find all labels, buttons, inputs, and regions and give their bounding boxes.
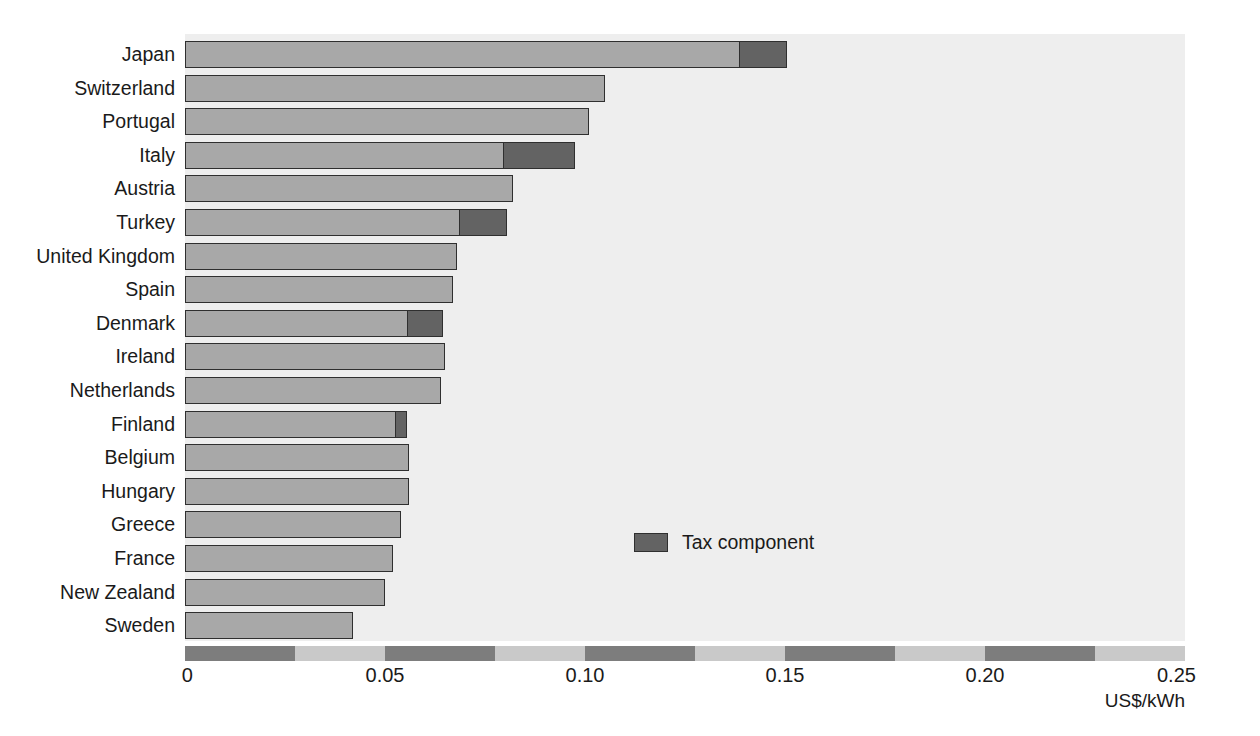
bar-segment-base	[185, 545, 393, 572]
bar-row	[185, 511, 401, 538]
category-label-ireland: Ireland	[115, 343, 175, 370]
x-axis-band	[185, 646, 1185, 661]
bar-row	[185, 411, 407, 438]
bar-row	[185, 276, 453, 303]
bar-row	[185, 209, 507, 236]
bar-segment-base	[185, 612, 353, 639]
category-label-turkey: Turkey	[116, 209, 175, 236]
x-axis-title: US$/kWh	[1105, 690, 1185, 712]
category-label-portugal: Portugal	[102, 108, 175, 135]
electricity-price-bar-chart: REGULATORY REFORM IN THE UNITED KINGDOM …	[0, 0, 1260, 736]
bar-segment-tax	[407, 310, 443, 337]
bar-segment-base	[185, 41, 741, 68]
x-tick-label-1: 0.05	[366, 664, 405, 687]
bar-row	[185, 444, 409, 471]
bar-segment-base	[185, 343, 445, 370]
bar-segment-base	[185, 108, 589, 135]
bar-segment-base	[185, 310, 409, 337]
legend-swatch-tax-component	[634, 533, 668, 552]
category-label-austria: Austria	[114, 175, 175, 202]
bar-row	[185, 142, 575, 169]
category-label-france: France	[114, 545, 175, 572]
x-tick-label-0: 0	[182, 664, 193, 687]
axis-band-block	[185, 646, 295, 661]
bar-segment-tax	[395, 411, 407, 438]
bar-row	[185, 41, 787, 68]
category-label-finland: Finland	[111, 411, 175, 438]
category-label-spain: Spain	[125, 276, 175, 303]
x-tick-label-3: 0.15	[766, 664, 805, 687]
category-label-hungary: Hungary	[101, 478, 175, 505]
category-label-switzerland: Switzerland	[74, 75, 175, 102]
bar-segment-base	[185, 411, 397, 438]
category-label-netherlands: Netherlands	[70, 377, 175, 404]
category-label-belgium: Belgium	[105, 444, 175, 471]
axis-band-block	[985, 646, 1095, 661]
category-label-greece: Greece	[111, 511, 175, 538]
bar-row	[185, 175, 513, 202]
bar-row	[185, 579, 385, 606]
bar-segment-base	[185, 511, 401, 538]
bar-row	[185, 478, 409, 505]
bar-row	[185, 545, 393, 572]
bar-segment-base	[185, 579, 385, 606]
bar-segment-base	[185, 175, 513, 202]
bar-row	[185, 377, 441, 404]
bar-segment-base	[185, 243, 457, 270]
category-label-italy: Italy	[139, 142, 175, 169]
bar-segment-tax	[739, 41, 787, 68]
bar-segment-base	[185, 276, 453, 303]
bar-row	[185, 243, 457, 270]
bar-row	[185, 108, 589, 135]
category-label-new-zealand: New Zealand	[60, 579, 175, 606]
bar-row	[185, 310, 443, 337]
bar-segment-base	[185, 478, 409, 505]
x-tick-label-2: 0.10	[566, 664, 605, 687]
bar-segment-base	[185, 75, 605, 102]
category-label-denmark: Denmark	[96, 310, 175, 337]
category-label-japan: Japan	[122, 41, 175, 68]
bar-row	[185, 612, 353, 639]
bar-row	[185, 343, 445, 370]
bar-segment-base	[185, 142, 505, 169]
x-tick-label-5: 0.25	[1157, 664, 1196, 687]
category-label-sweden: Sweden	[105, 612, 175, 639]
bar-segment-tax	[459, 209, 507, 236]
bar-segment-base	[185, 377, 441, 404]
bar-segment-base	[185, 444, 409, 471]
bar-segment-base	[185, 209, 461, 236]
x-tick-label-4: 0.20	[966, 664, 1005, 687]
axis-band-block	[585, 646, 695, 661]
legend-label-tax-component: Tax component	[682, 531, 814, 554]
axis-band-block	[385, 646, 495, 661]
category-label-united-kingdom: United Kingdom	[36, 243, 175, 270]
axis-band-block	[785, 646, 895, 661]
bar-segment-tax	[503, 142, 575, 169]
legend: Tax component	[634, 531, 814, 554]
bar-row	[185, 75, 605, 102]
